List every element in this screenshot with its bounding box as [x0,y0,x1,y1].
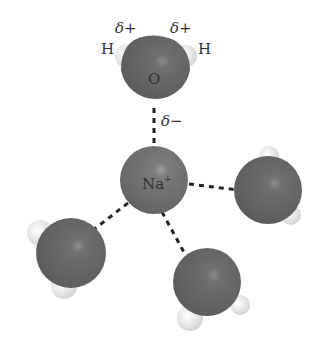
water-molecule-bottom-left [27,218,106,299]
water-molecule-bottom [173,248,250,331]
partial-negative-label: δ− [161,112,183,130]
ion-charge: + [164,174,172,184]
partial-positive-right-label: δ+ [170,19,192,37]
oxygen-atom [234,156,302,224]
hydrogen-right-label: H [198,40,211,58]
oxygen-atom [121,36,190,100]
ion-symbol: Na [142,175,164,193]
water-molecule-top [115,36,197,100]
hydrogen-left-label: H [101,40,114,58]
bond-bottom [162,212,186,256]
oxygen-atom [36,218,106,288]
bond-right [189,184,238,190]
oxygen-atom [173,248,241,316]
water-molecule-right [234,146,302,225]
partial-positive-left-label: δ+ [115,19,137,37]
oxygen-label: O [148,70,160,88]
hydration-diagram: H H δ+ δ+ O δ− Na+ [0,0,326,346]
